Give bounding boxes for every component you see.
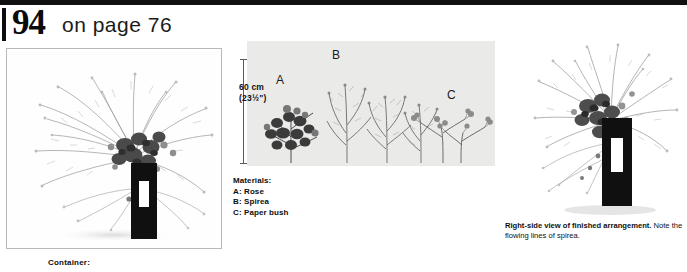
material-item-a: A:Rose (233, 187, 353, 198)
container-label: Container: (48, 258, 90, 267)
scale-bar-line (243, 59, 244, 163)
materials-list: Materials: A:Rose B:Spirea C:Paper bush (233, 176, 353, 218)
materials-title: Materials: (233, 176, 353, 187)
material-item-c: C:Paper bush (233, 208, 353, 219)
spirea-foliage-illustration (7, 49, 221, 248)
material-key-c: C: (233, 208, 244, 219)
specimen-label-a: A (276, 73, 284, 87)
main-arrangement-photo (6, 48, 222, 249)
specimen-label-b: B (332, 48, 340, 62)
caption-bold-text: Right-side view of finished arrangement. (505, 221, 651, 230)
material-key-a: A: (233, 187, 244, 198)
container-window-cutout (139, 181, 149, 207)
page-number-badge: 94 (12, 3, 45, 43)
header-rule (2, 8, 6, 41)
scale-bar-cap-bottom (240, 163, 247, 164)
specimen-label-c: C (447, 88, 456, 102)
material-item-b: B:Spirea (233, 197, 353, 208)
material-name-a: Rose (244, 187, 264, 196)
material-name-c: Paper bush (244, 208, 289, 217)
scale-imperial: (23½") (239, 93, 287, 104)
right-side-view-photo (506, 32, 682, 216)
page-reference-text: on page 76 (62, 10, 172, 40)
right-view-foliage-illustration (506, 32, 682, 216)
scale-bar (240, 55, 248, 167)
page-header: 94 on page 76 (0, 7, 420, 43)
right-container-window-cutout (611, 138, 623, 172)
scale-bar-cap-top (240, 59, 247, 60)
material-name-b: Spirea (244, 197, 269, 206)
material-key-b: B: (233, 197, 244, 208)
right-photo-caption: Right-side view of finished arrangement.… (505, 221, 683, 241)
top-black-strip (0, 0, 687, 5)
